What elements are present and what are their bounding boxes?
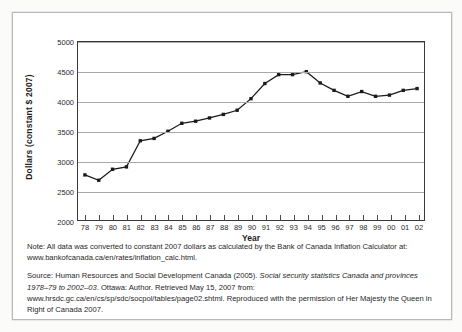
- x-axis-tick-label: 81: [123, 223, 131, 232]
- x-axis-tick-label: 94: [304, 223, 312, 232]
- caption-source: Source: Human Resources and Social Devel…: [27, 270, 439, 315]
- caption-note: Note: All data was converted to constant…: [27, 241, 439, 263]
- x-axis-tick: [99, 215, 100, 220]
- data-point-marker: [374, 95, 377, 98]
- data-point-marker: [222, 113, 225, 116]
- x-axis-tick-label: 85: [178, 223, 186, 232]
- x-axis-tick-label: 78: [81, 223, 89, 232]
- figure-frame: Dollars (constant $ 2007) 20002500300035…: [12, 12, 452, 320]
- data-point-marker: [346, 95, 349, 98]
- x-axis-tick: [308, 215, 309, 220]
- x-axis-tick-label: 90: [248, 223, 256, 232]
- x-axis-tick-label: 91: [262, 223, 270, 232]
- x-axis-tick-label: 96: [331, 223, 339, 232]
- data-point-marker: [402, 89, 405, 92]
- x-axis-tick-label: 87: [206, 223, 214, 232]
- data-point-marker: [249, 97, 252, 100]
- x-axis-tick: [196, 215, 197, 220]
- data-point-marker: [263, 82, 266, 85]
- data-point-marker: [111, 168, 114, 171]
- x-axis-tick: [419, 215, 420, 220]
- x-axis-tick: [405, 215, 406, 220]
- x-axis-tick: [238, 215, 239, 220]
- x-axis-tick: [210, 215, 211, 220]
- gridline: [78, 162, 424, 163]
- data-point-marker: [360, 90, 363, 93]
- gridline: [78, 132, 424, 133]
- gridline: [78, 102, 424, 103]
- caption-source-part1: Source: Human Resources and Social Devel…: [27, 271, 260, 280]
- x-axis-tick-label: 92: [276, 223, 284, 232]
- x-axis-tick: [377, 215, 378, 220]
- data-series: [78, 42, 424, 220]
- gridline: [78, 72, 424, 73]
- x-axis-tick-label: 01: [401, 223, 409, 232]
- x-axis-tick-label: 98: [359, 223, 367, 232]
- x-axis-tick: [85, 215, 86, 220]
- data-point-marker: [319, 81, 322, 84]
- x-axis-tick: [280, 215, 281, 220]
- data-point-marker: [332, 89, 335, 92]
- x-axis-tick: [113, 215, 114, 220]
- data-point-marker: [83, 173, 86, 176]
- x-axis-tick-label: 86: [192, 223, 200, 232]
- x-axis-tick: [349, 215, 350, 220]
- data-point-marker: [97, 179, 100, 182]
- y-axis-tick-label: 5000: [57, 38, 74, 47]
- data-point-marker: [139, 139, 142, 142]
- y-axis-tick-label: 2000: [57, 218, 74, 227]
- data-point-marker: [180, 122, 183, 125]
- y-axis-title-text: Dollars (constant $ 2007): [24, 74, 34, 180]
- x-axis-tick: [141, 215, 142, 220]
- gridline: [78, 42, 424, 43]
- x-axis-tick: [294, 215, 295, 220]
- data-point-marker: [235, 109, 238, 112]
- data-point-marker: [415, 87, 418, 90]
- plot-area: 2000250030003500400045005000787980818283…: [77, 41, 425, 221]
- data-point-marker: [194, 120, 197, 123]
- x-axis-tick-label: 95: [317, 223, 325, 232]
- x-axis-tick: [168, 215, 169, 220]
- x-axis-tick-label: 80: [109, 223, 117, 232]
- x-axis-tick-label: 99: [373, 223, 381, 232]
- x-axis-tick-label: 02: [415, 223, 423, 232]
- x-axis-tick: [322, 215, 323, 220]
- x-axis-tick-label: 82: [136, 223, 144, 232]
- data-point-marker: [125, 165, 128, 168]
- y-axis-title: Dollars (constant $ 2007): [21, 47, 37, 207]
- data-point-marker: [208, 116, 211, 119]
- y-axis-tick-label: 3000: [57, 158, 74, 167]
- x-axis-tick-label: 88: [220, 223, 228, 232]
- x-axis-tick: [336, 215, 337, 220]
- x-axis-tick: [391, 215, 392, 220]
- figure-page: Dollars (constant $ 2007) 20002500300035…: [0, 0, 462, 332]
- x-axis-tick-label: 84: [164, 223, 172, 232]
- gridline: [78, 192, 424, 193]
- x-axis-tick: [252, 215, 253, 220]
- x-axis-tick-label: 79: [95, 223, 103, 232]
- y-axis-tick-label: 4500: [57, 68, 74, 77]
- y-axis-tick-label: 2500: [57, 188, 74, 197]
- data-point-marker: [152, 137, 155, 140]
- x-axis-tick: [182, 215, 183, 220]
- x-axis-tick-label: 89: [234, 223, 242, 232]
- data-point-marker: [291, 73, 294, 76]
- x-axis-tick: [363, 215, 364, 220]
- x-axis-tick: [155, 215, 156, 220]
- y-axis-tick-label: 3500: [57, 128, 74, 137]
- data-point-marker: [388, 93, 391, 96]
- series-line: [85, 72, 417, 181]
- caption-note-line1: Note: All data was converted to constant…: [27, 242, 397, 251]
- y-axis-tick-label: 4000: [57, 98, 74, 107]
- x-axis-tick: [266, 215, 267, 220]
- x-axis-tick-label: 97: [345, 223, 353, 232]
- figure-caption: Note: All data was converted to constant…: [27, 241, 439, 322]
- x-axis-tick: [127, 215, 128, 220]
- x-axis-tick-label: 83: [150, 223, 158, 232]
- x-axis-tick-label: 93: [290, 223, 298, 232]
- x-axis-tick-label: 00: [387, 223, 395, 232]
- data-point-marker: [277, 73, 280, 76]
- x-axis-tick: [224, 215, 225, 220]
- line-chart: Dollars (constant $ 2007) 20002500300035…: [13, 17, 451, 239]
